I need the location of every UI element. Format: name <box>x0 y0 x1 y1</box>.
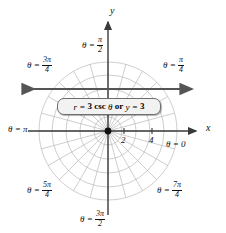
equation-conjunction: or <box>115 101 124 111</box>
equation-y-value: 3 <box>140 101 145 111</box>
equation-function: csc <box>94 101 106 111</box>
theta-3pi-over-4-denominator: 4 <box>42 66 52 74</box>
theta-zero-lhs: θ = <box>166 139 179 149</box>
theta-pi-lhs: θ = <box>8 124 21 134</box>
theta-pi-over-4-label: θ = π 4 <box>163 57 184 75</box>
theta-pi-over-4-numerator: π <box>178 56 184 64</box>
theta-pi-over-4-lhs: θ = <box>163 60 176 70</box>
theta-3pi-over-4-lhs: θ = <box>27 60 40 70</box>
theta-3pi-over-2-numerator: 3π <box>95 210 105 218</box>
y-axis-label: y <box>110 6 114 16</box>
theta-7pi-over-4-label: θ = 7π 4 <box>157 182 182 200</box>
theta-pi-over-4-fraction: π 4 <box>178 56 184 74</box>
theta-5pi-over-4-lhs: θ = <box>27 185 40 195</box>
theta-pi-value: π <box>23 124 28 134</box>
theta-pi-over-2-fraction: π 2 <box>97 36 103 54</box>
equation-label: r = 3 csc θ or y = 3 <box>73 101 144 112</box>
polar-graph-figure: r = 3 csc θ or y = 3 y x 2 4 θ = π 2 θ =… <box>0 0 226 233</box>
theta-3pi-over-2-fraction: 3π 2 <box>95 210 105 228</box>
theta-pi-label: θ = π <box>8 125 28 134</box>
theta-pi-over-2-numerator: π <box>97 36 103 44</box>
theta-3pi-over-4-numerator: 3π <box>42 56 52 64</box>
theta-3pi-over-4-fraction: 3π 4 <box>42 56 52 74</box>
theta-pi-over-2-denominator: 2 <box>97 46 103 54</box>
theta-3pi-over-4-label: θ = 3π 4 <box>27 57 52 75</box>
theta-3pi-over-2-label: θ = 3π 2 <box>80 211 105 229</box>
theta-zero-label: θ = 0 <box>166 140 186 149</box>
theta-3pi-over-2-denominator: 2 <box>95 220 105 228</box>
theta-zero-value: 0 <box>181 139 186 149</box>
theta-5pi-over-4-fraction: 5π 4 <box>42 181 52 199</box>
x-axis-label: x <box>206 123 210 133</box>
theta-7pi-over-4-denominator: 4 <box>172 191 182 199</box>
theta-5pi-over-4-label: θ = 5π 4 <box>27 182 52 200</box>
theta-3pi-over-2-lhs: θ = <box>80 214 93 224</box>
theta-7pi-over-4-numerator: 7π <box>172 181 182 189</box>
theta-5pi-over-4-denominator: 4 <box>42 191 52 199</box>
x-tick-2: 2 <box>121 136 126 145</box>
equation-callout-box: r = 3 csc θ or y = 3 <box>57 98 161 115</box>
theta-7pi-over-4-fraction: 7π 4 <box>172 181 182 199</box>
theta-7pi-over-4-lhs: θ = <box>157 185 170 195</box>
theta-pi-over-2-lhs: θ = <box>82 40 95 50</box>
theta-pi-over-4-denominator: 4 <box>178 66 184 74</box>
theta-pi-over-2-label: θ = π 2 <box>82 37 103 55</box>
theta-5pi-over-4-numerator: 5π <box>42 181 52 189</box>
origin-point <box>105 128 112 135</box>
x-tick-4: 4 <box>149 136 154 145</box>
